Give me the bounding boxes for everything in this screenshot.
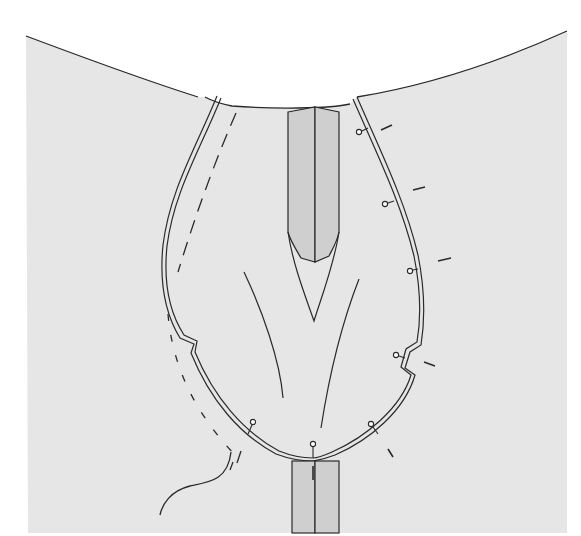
fabric-panel bbox=[26, 31, 567, 533]
sewing-illustration bbox=[0, 0, 581, 536]
bottom-placket-strip bbox=[292, 461, 339, 533]
